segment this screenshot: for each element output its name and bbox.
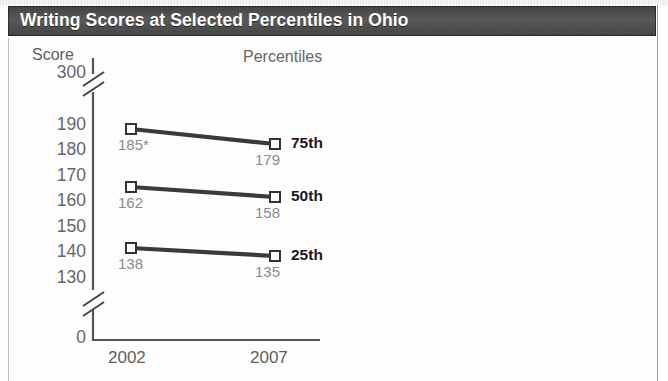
data-label-75th-2007: 179 bbox=[255, 151, 280, 168]
series-label-25th: 25th bbox=[291, 246, 323, 264]
data-label-25th-2007: 135 bbox=[255, 263, 280, 280]
y-tick-label-300: 300 bbox=[28, 62, 86, 83]
data-point-25th-2002 bbox=[126, 243, 136, 253]
x-tick-label-2007: 2007 bbox=[250, 348, 288, 368]
scan-artifact-top bbox=[0, 0, 668, 5]
series-line-75th bbox=[131, 129, 275, 144]
figure-title-bar: Writing Scores at Selected Percentiles i… bbox=[8, 6, 656, 36]
y-tick-label-150: 150 bbox=[28, 216, 86, 237]
series-line-50th bbox=[131, 187, 275, 197]
y-tick-label-0: 0 bbox=[28, 327, 86, 348]
data-point-75th-2002 bbox=[126, 124, 136, 134]
y-tick-label-190: 190 bbox=[28, 114, 86, 135]
series-line-25th bbox=[131, 248, 275, 256]
data-label-50th-2002: 162 bbox=[118, 194, 143, 211]
chart-canvas: Score Percentiles 300 190 180 170 160 15… bbox=[0, 38, 668, 381]
y-tick-label-180: 180 bbox=[28, 139, 86, 160]
x-tick-label-2002: 2002 bbox=[108, 348, 146, 368]
data-label-25th-2002: 138 bbox=[118, 255, 143, 272]
figure-title: Writing Scores at Selected Percentiles i… bbox=[20, 10, 408, 31]
data-point-25th-2007 bbox=[270, 251, 280, 261]
data-point-50th-2002 bbox=[126, 182, 136, 192]
series-label-75th: 75th bbox=[291, 134, 323, 152]
data-label-50th-2007: 158 bbox=[255, 204, 280, 221]
data-point-75th-2007 bbox=[270, 139, 280, 149]
series-label-50th: 50th bbox=[291, 187, 323, 205]
y-tick-label-170: 170 bbox=[28, 165, 86, 186]
figure-panel: Writing Scores at Selected Percentiles i… bbox=[0, 0, 668, 381]
line-chart-svg bbox=[0, 38, 668, 381]
data-label-75th-2002: 185* bbox=[118, 136, 149, 153]
y-tick-label-140: 140 bbox=[28, 241, 86, 262]
data-point-50th-2007 bbox=[270, 192, 280, 202]
percentiles-header: Percentiles bbox=[243, 48, 322, 66]
y-tick-label-160: 160 bbox=[28, 190, 86, 211]
y-tick-label-130: 130 bbox=[28, 267, 86, 288]
